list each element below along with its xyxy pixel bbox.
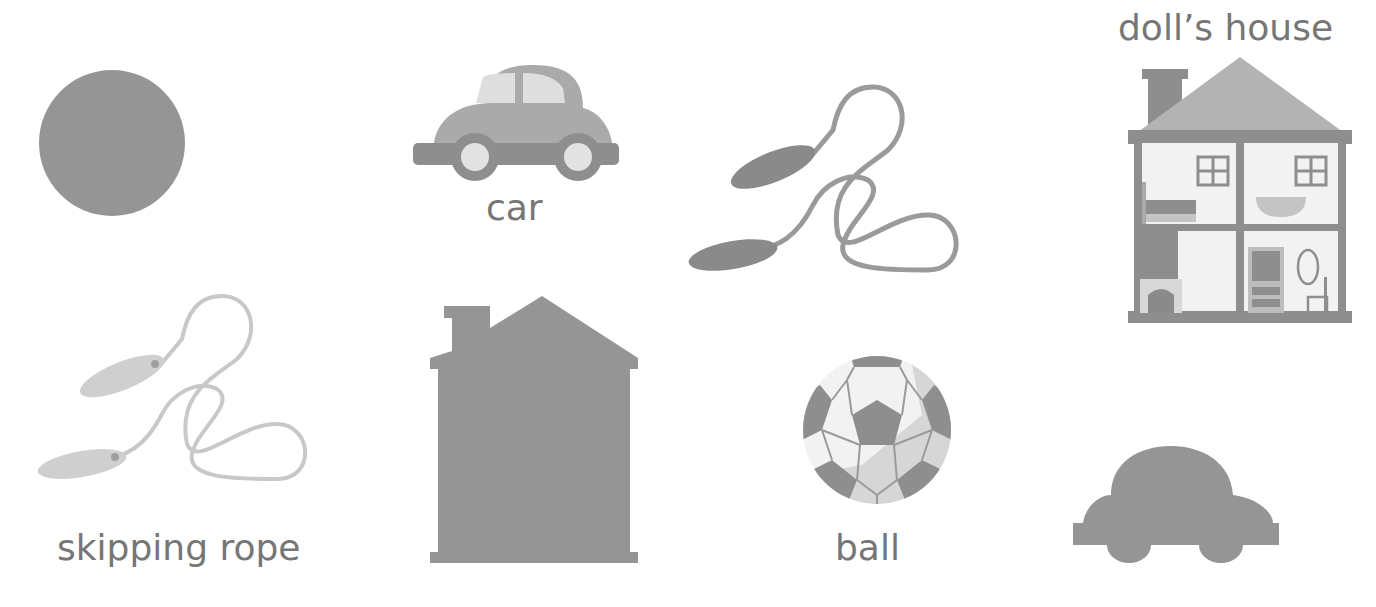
car-picture-icon bbox=[413, 63, 623, 183]
skipping-rope-picture-icon bbox=[37, 294, 322, 489]
ball-picture-icon bbox=[802, 355, 952, 505]
dolls-house-picture-icon bbox=[1128, 57, 1352, 323]
skipping-rope-dark-icon bbox=[688, 85, 973, 280]
ball-silhouette bbox=[38, 70, 188, 218]
dolls-house-label: doll’s house bbox=[1118, 10, 1333, 46]
car-label: car bbox=[486, 190, 543, 226]
skipping-rope-label: skipping rope bbox=[57, 530, 300, 566]
car-silhouette bbox=[1073, 443, 1283, 561]
ball-label: ball bbox=[835, 530, 900, 566]
house-silhouette bbox=[430, 296, 650, 564]
